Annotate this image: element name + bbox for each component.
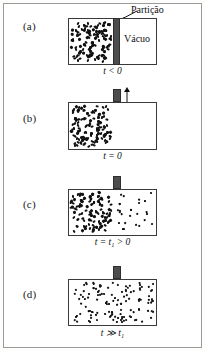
gas-particle bbox=[152, 300, 154, 302]
gas-particle bbox=[91, 193, 95, 196]
gas-particle bbox=[86, 205, 90, 208]
gas-particle bbox=[74, 29, 76, 32]
gas-particle bbox=[80, 203, 84, 207]
gas-particle bbox=[144, 200, 146, 202]
gas-particle bbox=[105, 140, 108, 143]
gas-particle bbox=[72, 39, 76, 43]
gas-particle bbox=[135, 224, 137, 226]
gas-particle bbox=[82, 219, 85, 223]
partition-b bbox=[113, 89, 121, 102]
gas-particle bbox=[124, 299, 126, 302]
gas-particle bbox=[75, 289, 77, 292]
gas-particle bbox=[105, 302, 107, 304]
gas-particle bbox=[138, 288, 140, 290]
gas-particle bbox=[96, 311, 98, 313]
gas-particle bbox=[72, 211, 75, 215]
gas-particle bbox=[94, 314, 96, 316]
gas-particle bbox=[101, 24, 104, 28]
panel-c-label: (c) bbox=[23, 198, 36, 210]
gas-particle bbox=[96, 211, 99, 214]
gas-particle bbox=[89, 34, 92, 36]
gas-particle bbox=[77, 38, 80, 41]
gas-particle bbox=[123, 316, 125, 318]
gas-particle bbox=[82, 144, 86, 147]
panel-a-label: (a) bbox=[23, 20, 36, 32]
gas-particle bbox=[108, 303, 110, 305]
panel-b: (b) t = 0 bbox=[0, 85, 205, 171]
gas-particle bbox=[74, 48, 77, 51]
gas-particle bbox=[148, 286, 150, 289]
gas-region-a bbox=[69, 19, 113, 64]
gas-particle bbox=[92, 117, 96, 120]
gas-particle bbox=[75, 316, 77, 318]
gas-particle bbox=[76, 110, 79, 113]
gas-particle bbox=[110, 38, 112, 41]
gas-particle bbox=[76, 321, 78, 323]
gas-particle bbox=[119, 308, 122, 311]
gas-particle bbox=[148, 295, 150, 298]
gas-particle bbox=[107, 23, 109, 26]
gas-particle bbox=[128, 298, 130, 300]
panel-a: (a) Partição Vácuo t < 0 bbox=[0, 0, 205, 85]
gas-particle bbox=[150, 192, 152, 194]
gas-particle bbox=[141, 285, 144, 287]
gas-particle bbox=[72, 215, 75, 218]
gas-particle bbox=[79, 58, 83, 61]
joule-free-expansion-figure: (a) Partição Vácuo t < 0 (b) t = 0 bbox=[0, 0, 205, 351]
gas-particle bbox=[83, 44, 87, 47]
gas-particle bbox=[136, 212, 138, 214]
gas-region-b bbox=[69, 103, 113, 149]
gas-particle bbox=[107, 199, 110, 202]
gas-particle bbox=[73, 57, 76, 60]
gas-particle bbox=[69, 46, 73, 50]
container-box-d bbox=[68, 279, 157, 326]
gas-particle bbox=[90, 140, 93, 143]
gas-particle bbox=[76, 121, 80, 125]
gas-particle bbox=[95, 105, 98, 107]
gas-particle bbox=[121, 321, 123, 323]
gas-region-c-dense bbox=[69, 190, 114, 235]
gas-particle bbox=[74, 293, 76, 295]
gas-particle bbox=[93, 215, 96, 218]
gas-particle bbox=[117, 298, 119, 301]
gas-particle bbox=[88, 321, 90, 323]
gas-particle bbox=[117, 317, 119, 319]
gas-particle bbox=[87, 297, 89, 299]
time-label-c: t = t₁ > 0 bbox=[68, 237, 157, 247]
gas-particle bbox=[79, 312, 81, 315]
gas-particle bbox=[109, 218, 112, 221]
gas-particle bbox=[130, 309, 132, 311]
gas-particle bbox=[113, 316, 115, 318]
gas-particle bbox=[101, 106, 104, 109]
gas-particle bbox=[121, 213, 123, 215]
gas-particle bbox=[89, 53, 93, 57]
gas-particle bbox=[129, 214, 131, 216]
gas-particle bbox=[117, 284, 120, 286]
gas-particle bbox=[72, 229, 75, 232]
gas-particle bbox=[107, 286, 109, 288]
gas-particle bbox=[100, 285, 103, 288]
gas-particle bbox=[80, 303, 82, 305]
gas-particle bbox=[75, 34, 78, 37]
gas-particle bbox=[103, 229, 106, 232]
gas-particle bbox=[121, 291, 123, 293]
gas-particle bbox=[122, 295, 124, 297]
gas-particle bbox=[82, 117, 86, 120]
gas-particle bbox=[137, 201, 140, 204]
partition-c bbox=[113, 176, 121, 189]
gas-particle bbox=[109, 130, 113, 134]
gas-particle bbox=[117, 222, 120, 225]
gas-particle bbox=[104, 313, 106, 315]
gas-particle bbox=[106, 195, 110, 199]
gas-particle bbox=[79, 33, 82, 36]
panel-d: (d) t ≫ t₁ bbox=[0, 260, 205, 351]
gas-particle bbox=[90, 317, 92, 319]
gas-particle bbox=[102, 211, 104, 214]
gas-particle bbox=[90, 125, 94, 128]
gas-particle bbox=[146, 213, 148, 215]
gas-particle bbox=[152, 311, 154, 313]
gas-particle bbox=[132, 290, 134, 292]
gas-particle bbox=[81, 51, 84, 54]
gas-particle bbox=[147, 310, 149, 312]
gas-region-d bbox=[69, 280, 156, 325]
